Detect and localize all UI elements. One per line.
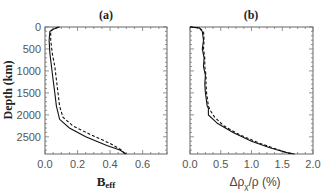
- panel-b-lines: [190, 27, 295, 154]
- x-tick-label: 1.0: [244, 158, 259, 170]
- panel-b-x-label: Δρχ/ρ (%): [229, 175, 280, 191]
- x-tick-label: 0.5: [213, 158, 228, 170]
- y-tick-label: 2500: [17, 131, 41, 143]
- panel-a-y-ticks: 05001000150020002500: [17, 21, 167, 150]
- panel-a-title: (a): [99, 8, 113, 22]
- x-tick-label: 1.5: [275, 158, 290, 170]
- panel-a: (a) 05001000150020002500 0.00.20.40.6 Be…: [1, 8, 167, 190]
- y-tick-label: 500: [23, 43, 41, 55]
- panel-b-frame: [190, 27, 313, 154]
- panel-a-lines: [49, 27, 126, 154]
- y-tick-label: 1000: [17, 65, 41, 77]
- solid-line: [49, 27, 126, 154]
- figure: (a) 05001000150020002500 0.00.20.40.6 Be…: [0, 0, 326, 193]
- x-tick-label: 2.0: [305, 158, 320, 170]
- x-tick-label: 0.4: [102, 158, 117, 170]
- x-tick-label: 0.0: [37, 158, 52, 170]
- panel-b-title: (b): [244, 8, 259, 22]
- panel-b-y-ticks: [190, 27, 313, 150]
- y-tick-label: 1500: [17, 87, 41, 99]
- y-tick-label: 2000: [17, 109, 41, 121]
- x-tick-label: 0.2: [70, 158, 85, 170]
- y-tick-label: 0: [35, 21, 41, 33]
- dashed-line: [51, 27, 125, 154]
- x-tick-label: 0.0: [182, 158, 197, 170]
- x-tick-label: 0.6: [135, 158, 150, 170]
- y-axis-label: Depth (km): [1, 60, 15, 119]
- panel-a-frame: [45, 27, 167, 154]
- panel-a-x-label: Beff: [97, 174, 117, 190]
- solid-line: [190, 27, 295, 154]
- panel-b: (b) 0.00.51.01.52.0 Δρχ/ρ (%): [182, 8, 320, 191]
- panel-a-x-ticks: 0.00.20.40.6: [37, 27, 167, 170]
